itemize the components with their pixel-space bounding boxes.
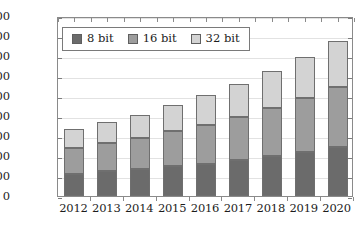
gridline [58, 18, 352, 19]
bar-group[interactable] [163, 105, 183, 196]
bar-segment[interactable] [328, 147, 348, 196]
bar-group[interactable] [229, 84, 249, 196]
y-axis-tick [58, 98, 62, 99]
stacked-bar-chart: 01,0002,0003,0004,0005,0006,0007,0008,00… [0, 0, 363, 239]
y-axis-tick [348, 38, 352, 39]
bar-group[interactable] [130, 115, 150, 196]
legend-item[interactable]: 32 bit [191, 33, 240, 45]
bar-segment[interactable] [163, 105, 183, 131]
x-axis-tick [156, 197, 157, 201]
y-axis-tick [348, 178, 352, 179]
bar-segment[interactable] [229, 84, 249, 117]
bar-segment[interactable] [196, 95, 216, 125]
y-axis-tick [58, 198, 62, 199]
top-axis-tick [157, 18, 158, 22]
bar-segment[interactable] [229, 160, 249, 196]
y-axis-tick [58, 78, 62, 79]
bar-segment[interactable] [196, 125, 216, 164]
bar-segment[interactable] [64, 129, 84, 148]
top-axis-tick [354, 18, 355, 22]
y-axis-tick [348, 98, 352, 99]
bar-group[interactable] [196, 95, 216, 196]
bar-segment[interactable] [328, 41, 348, 87]
bar-segment[interactable] [97, 143, 117, 171]
top-axis-tick [338, 18, 339, 22]
y-axis-tick-label: 5,000 [0, 91, 10, 103]
y-axis-tick [348, 58, 352, 59]
top-axis-tick [107, 18, 108, 22]
y-axis-tick [58, 138, 62, 139]
x-axis-tick [189, 197, 190, 201]
y-axis-tick-label: 3,000 [0, 131, 10, 143]
y-axis-tick [58, 178, 62, 179]
y-axis-tick-label: 2,000 [0, 151, 10, 163]
x-axis-tick [353, 197, 354, 201]
x-axis-tick [90, 197, 91, 201]
bar-segment[interactable] [262, 71, 282, 108]
bar-segment[interactable] [130, 138, 150, 169]
bar-segment[interactable] [163, 166, 183, 196]
bar-group[interactable] [64, 129, 84, 196]
bar-segment[interactable] [97, 122, 117, 143]
top-axis-tick [305, 18, 306, 22]
y-axis-tick [348, 118, 352, 119]
legend-item[interactable]: 8 bit [72, 33, 114, 45]
y-axis-tick-label: 6,000 [0, 71, 10, 83]
bar-segment[interactable] [295, 98, 315, 152]
bar-group[interactable] [97, 122, 117, 196]
y-axis-tick [348, 198, 352, 199]
y-axis-tick [58, 118, 62, 119]
legend-swatch-icon [72, 34, 82, 44]
top-axis-tick [288, 18, 289, 22]
top-axis-tick [58, 18, 59, 22]
top-axis-tick [140, 18, 141, 22]
top-axis-tick [173, 18, 174, 22]
x-axis-tick [221, 197, 222, 201]
legend-label: 32 bit [206, 33, 240, 45]
bar-group[interactable] [295, 57, 315, 196]
y-axis-tick-label: 1,000 [0, 171, 10, 183]
bar-group[interactable] [262, 71, 282, 196]
bar-group[interactable] [328, 41, 348, 196]
top-axis-tick [190, 18, 191, 22]
top-axis-tick [74, 18, 75, 22]
x-axis-tick [320, 197, 321, 201]
bar-segment[interactable] [262, 108, 282, 156]
bar-segment[interactable] [229, 117, 249, 160]
legend-item[interactable]: 16 bit [128, 33, 177, 45]
y-axis-tick [58, 58, 62, 59]
top-axis-tick [206, 18, 207, 22]
y-axis-tick-label: 0 [0, 191, 10, 203]
x-axis-tick [123, 197, 124, 201]
y-axis-tick [58, 158, 62, 159]
bar-segment[interactable] [196, 164, 216, 196]
y-axis-tick [348, 158, 352, 159]
bar-segment[interactable] [328, 87, 348, 147]
x-axis-tick [287, 197, 288, 201]
bar-segment[interactable] [163, 131, 183, 166]
x-axis-tick-label: 2020 [317, 203, 357, 215]
bar-segment[interactable] [64, 148, 84, 174]
x-axis-tick [254, 197, 255, 201]
y-axis-tick [348, 18, 352, 19]
bar-segment[interactable] [295, 152, 315, 196]
top-axis-tick [239, 18, 240, 22]
legend-swatch-icon [191, 34, 201, 44]
legend-label: 8 bit [87, 33, 114, 45]
y-axis-tick [348, 78, 352, 79]
bar-segment[interactable] [295, 57, 315, 98]
top-axis-tick [91, 18, 92, 22]
y-axis-tick-label: 8,000 [0, 31, 10, 43]
y-axis-tick-label: 7,000 [0, 51, 10, 63]
top-axis-tick [222, 18, 223, 22]
y-axis-tick [348, 138, 352, 139]
top-axis-tick [321, 18, 322, 22]
top-axis-tick [272, 18, 273, 22]
bar-segment[interactable] [97, 171, 117, 196]
y-axis-tick-label: 4,000 [0, 111, 10, 123]
bar-segment[interactable] [130, 115, 150, 138]
legend-label: 16 bit [143, 33, 177, 45]
bar-segment[interactable] [64, 174, 84, 196]
bar-segment[interactable] [130, 169, 150, 196]
bar-segment[interactable] [262, 156, 282, 196]
